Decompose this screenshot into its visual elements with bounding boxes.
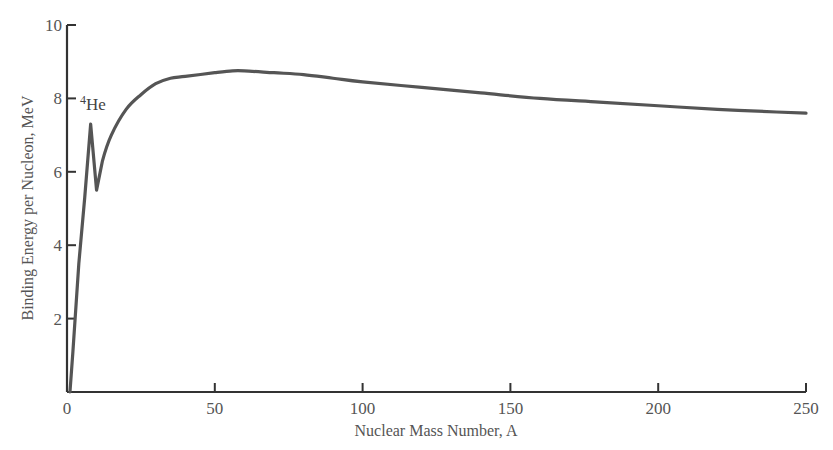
helium-4-annotation: 4He <box>80 93 106 114</box>
x-tick-label: 200 <box>645 399 671 418</box>
x-tick-label: 0 <box>63 399 72 418</box>
helium-4-symbol: He <box>86 95 106 114</box>
y-tick-label: 8 <box>54 89 63 108</box>
x-axis-title: Nuclear Mass Number, A <box>355 422 518 439</box>
y-tick-label: 10 <box>45 16 62 35</box>
y-axis-title: Binding Energy per Nucleon, MeV <box>19 95 37 320</box>
x-tick-label: 50 <box>206 399 223 418</box>
axes: 246810 050100150200250 <box>45 16 819 418</box>
x-tick-label: 150 <box>498 399 524 418</box>
y-ticks: 246810 <box>45 16 76 329</box>
binding-energy-curve <box>70 71 806 392</box>
x-tick-label: 250 <box>793 399 819 418</box>
y-tick-label: 2 <box>54 310 63 329</box>
x-tick-label: 100 <box>350 399 376 418</box>
x-ticks: 050100150200250 <box>63 383 819 418</box>
y-tick-label: 6 <box>54 163 63 182</box>
binding-energy-chart: 246810 050100150200250 4He Nuclear Mass … <box>0 0 833 450</box>
y-tick-label: 4 <box>54 236 63 255</box>
